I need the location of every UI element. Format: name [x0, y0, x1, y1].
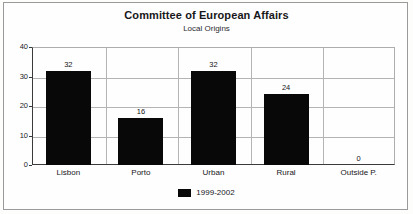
bar-value-label: 32 [32, 60, 105, 69]
y-axis-tick-label: 0 [2, 161, 28, 169]
x-axis-tick-label: Rural [250, 168, 323, 178]
bar-value-label: 24 [250, 83, 323, 92]
bar [118, 118, 163, 165]
y-axis-tick-label: 30 [2, 73, 28, 81]
x-axis-tick-label: Urban [177, 168, 250, 178]
chart-subtitle: Local Origins [0, 24, 413, 33]
chart-title: Committee of European Affairs [0, 9, 413, 21]
bar-value-label: 32 [177, 60, 250, 69]
bar-group: 32 [177, 47, 250, 165]
bar-value-label: 16 [105, 107, 178, 116]
x-axis-tick-label: Outside P. [322, 168, 395, 178]
bar-group: 16 [105, 47, 178, 165]
chart-legend: 1999-2002 [0, 188, 413, 197]
bar [191, 71, 236, 165]
bars-layer: 321632240 [32, 47, 395, 165]
y-axis-tick-mark [29, 165, 32, 166]
legend-swatch-icon [178, 189, 191, 197]
x-axis: LisbonPortoUrbanRuralOutside P. [32, 168, 395, 182]
y-axis-tick-label: 40 [2, 43, 28, 51]
bar-value-label: 0 [322, 154, 395, 163]
x-axis-tick-label: Lisbon [32, 168, 105, 178]
bar [46, 71, 91, 165]
bar-group: 32 [32, 47, 105, 165]
bar-group: 0 [322, 47, 395, 165]
bar-group: 24 [250, 47, 323, 165]
chart-figure: Committee of European Affairs Local Orig… [0, 0, 413, 214]
legend-label: 1999-2002 [196, 188, 234, 197]
y-axis-tick-label: 20 [2, 102, 28, 110]
bar [264, 94, 309, 165]
x-axis-tick-label: Porto [105, 168, 178, 178]
y-axis-tick-label: 10 [2, 132, 28, 140]
